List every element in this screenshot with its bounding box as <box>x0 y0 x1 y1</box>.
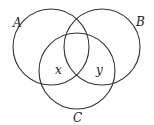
region-label-x: x <box>55 63 62 77</box>
label-a: A <box>12 16 22 30</box>
region-label-y: y <box>95 63 103 77</box>
venn-diagram: A B C x y <box>0 0 154 125</box>
circle-c <box>39 33 115 109</box>
label-b: B <box>135 15 145 29</box>
label-c: C <box>73 111 82 125</box>
circle-a <box>13 9 89 85</box>
